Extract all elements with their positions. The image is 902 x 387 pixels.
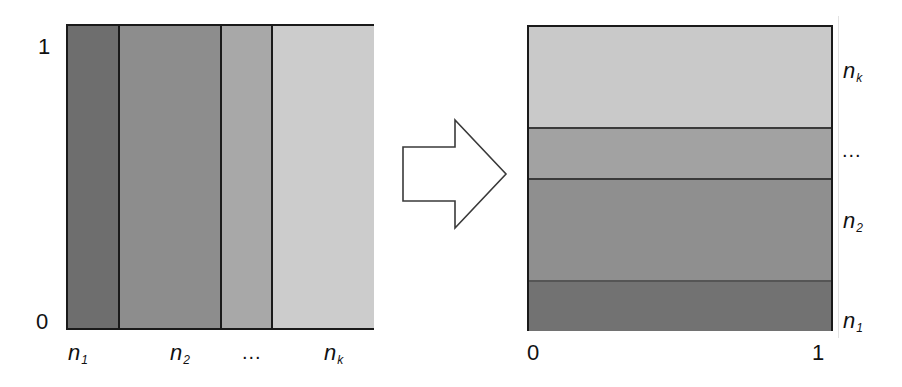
left-partition-box	[66, 24, 374, 330]
row-label-n2: n2	[843, 210, 863, 234]
row-divider	[529, 280, 831, 282]
column-label-nk: nk	[324, 342, 343, 366]
column-ellipsis	[220, 26, 271, 328]
right-partition-box	[527, 25, 833, 331]
column-n2	[118, 26, 220, 328]
y-axis-top-label: 1	[38, 36, 50, 58]
row-n2	[529, 179, 831, 281]
label-guide-line	[838, 16, 839, 338]
y-axis-bottom-label: 0	[36, 311, 48, 333]
x-axis-left-label: 0	[527, 342, 539, 364]
row-label-n1: n1	[843, 310, 863, 334]
column-divider	[118, 26, 120, 328]
row-label-nk: nk	[843, 60, 862, 84]
column-n1	[68, 26, 118, 328]
row-divider	[529, 127, 831, 129]
column-divider	[220, 26, 222, 328]
column-label-n2: n2	[170, 342, 190, 366]
row-label-ellipsis: ...	[842, 140, 862, 160]
column-nk	[271, 26, 374, 328]
column-label-ellipsis: ...	[242, 342, 262, 362]
row-divider	[529, 178, 831, 180]
arrow-right-icon	[398, 115, 516, 235]
row-n1	[529, 281, 831, 331]
x-axis-right-label: 1	[812, 342, 824, 364]
column-divider	[271, 26, 273, 328]
row-ellipsis	[529, 128, 831, 179]
row-nk	[529, 27, 831, 128]
column-label-n1: n1	[68, 342, 88, 366]
